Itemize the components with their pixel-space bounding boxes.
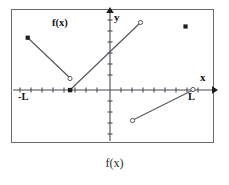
y-axis-label: y <box>114 12 120 23</box>
y-axis-arrowhead <box>106 7 114 13</box>
endpoint-open-right-start <box>130 118 134 122</box>
right-bound-label: L <box>188 92 195 103</box>
function-label: f(x) <box>52 18 68 29</box>
curve-right-branch <box>130 87 195 122</box>
endpoint-open-left-end <box>68 76 72 80</box>
x-axis-label: x <box>200 72 206 83</box>
endpoint-filled-left-start <box>26 36 30 40</box>
figure-caption: f(x) <box>0 156 229 171</box>
endpoint-filled-origin <box>68 88 72 92</box>
x-axis-arrowhead <box>212 86 218 94</box>
curve-left-branch <box>26 36 73 81</box>
curve-middle-branch <box>68 20 143 92</box>
endpoint-open-middle-top <box>138 20 142 24</box>
figure-container: y x -L L f(x) f(x) <box>0 0 229 185</box>
isolated-point-marker <box>183 24 187 28</box>
left-bound-label: -L <box>18 92 29 103</box>
